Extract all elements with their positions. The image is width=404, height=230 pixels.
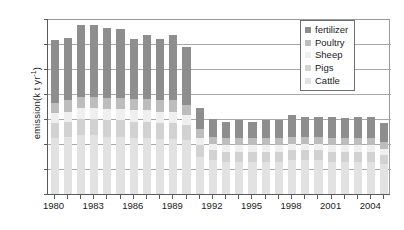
bar-segment-pigs xyxy=(143,122,151,138)
bar-segment-fertilizer xyxy=(169,35,177,100)
bar-segment-poultry xyxy=(314,137,322,145)
bar xyxy=(209,119,217,194)
y-axis-title-exponent: -1 xyxy=(30,70,37,76)
legend-label: Pigs xyxy=(315,63,333,73)
bar-segment-poultry xyxy=(328,138,336,146)
bar-segment-cattle xyxy=(116,137,124,195)
legend-item-sheep[interactable]: Sheep xyxy=(305,49,348,62)
x-tick-mark xyxy=(291,195,292,199)
bar xyxy=(248,122,256,195)
bar-segment-cattle xyxy=(156,139,164,194)
x-tick-label: 1980 xyxy=(34,201,74,211)
bar-segment-poultry xyxy=(156,100,164,111)
bar-segment-fertilizer xyxy=(143,35,151,99)
y-axis-title: emission(k t yr-1) xyxy=(30,23,42,183)
legend-item-poultry[interactable]: Poultry xyxy=(305,37,348,50)
bar-segment-fertilizer xyxy=(156,39,164,100)
bar-segment-pigs xyxy=(275,152,283,162)
x-tick-mark xyxy=(93,195,94,199)
bar-segment-fertilizer xyxy=(77,25,85,96)
y-tick-mark xyxy=(44,69,48,70)
bar-segment-pigs xyxy=(169,123,177,139)
bar-segment-fertilizer xyxy=(248,122,256,138)
x-tick-mark xyxy=(317,195,318,199)
bar-segment-pigs xyxy=(248,152,256,162)
bar-segment-sheep xyxy=(130,110,138,121)
gridline xyxy=(48,144,391,145)
bar-segment-pigs xyxy=(64,122,72,137)
gridline xyxy=(48,94,391,95)
x-tick-mark xyxy=(304,195,305,199)
legend-item-pigs[interactable]: Pigs xyxy=(305,62,348,75)
x-tick-mark xyxy=(331,195,332,199)
bar-segment-sheep xyxy=(169,112,177,123)
bar-segment-fertilizer xyxy=(196,108,204,129)
bar-segment-sheep xyxy=(51,113,59,123)
x-tick-mark xyxy=(357,195,358,199)
gridline xyxy=(48,169,391,170)
bar-segment-fertilizer xyxy=(341,118,349,138)
bar-segment-poultry xyxy=(143,99,151,110)
bar-segment-cattle xyxy=(130,138,138,194)
legend-item-cattle[interactable]: Cattle xyxy=(305,74,348,87)
bar-segment-poultry xyxy=(301,137,309,145)
bar-segment-cattle xyxy=(182,140,190,194)
x-tick-mark xyxy=(80,195,81,199)
y-tick-mark xyxy=(44,19,48,20)
x-tick-mark xyxy=(225,195,226,199)
x-tick-label: 2001 xyxy=(311,201,351,211)
bar-segment-pigs xyxy=(51,123,59,138)
bar-segment-sheep xyxy=(182,115,190,125)
bar-segment-pigs xyxy=(103,120,111,136)
bar-segment-fertilizer xyxy=(262,120,270,138)
legend-label: Poultry xyxy=(315,38,345,48)
bar-segment-cattle xyxy=(314,160,322,194)
bar-segment-poultry xyxy=(51,103,59,113)
y-tick-mark xyxy=(44,119,48,120)
bar-segment-fertilizer xyxy=(275,120,283,138)
x-tick-mark xyxy=(344,195,345,199)
bar-segment-poultry xyxy=(380,142,388,150)
bar-segment-pigs xyxy=(367,152,375,162)
bar-segment-poultry xyxy=(275,138,283,146)
bar-segment-cattle xyxy=(103,137,111,195)
bar-segment-pigs xyxy=(90,119,98,135)
y-axis-title-tail: ) xyxy=(31,67,42,70)
bar-segment-cattle xyxy=(354,162,362,195)
bar xyxy=(64,38,72,194)
bar xyxy=(262,120,270,194)
x-tick-mark xyxy=(370,195,371,199)
x-tick-mark xyxy=(159,195,160,199)
x-tick-mark xyxy=(106,195,107,199)
gridline xyxy=(48,119,391,120)
bar-segment-pigs xyxy=(354,152,362,162)
bar xyxy=(182,47,190,195)
x-tick-mark xyxy=(67,195,68,199)
bar-segment-sheep xyxy=(64,112,72,122)
bar-segment-poultry xyxy=(288,137,296,145)
bar-segment-poultry xyxy=(64,100,72,111)
bar-segment-poultry xyxy=(169,100,177,111)
legend-item-fertilizer[interactable]: fertilizer xyxy=(305,24,348,37)
bar-segment-fertilizer xyxy=(314,117,322,137)
x-tick-label: 1998 xyxy=(271,201,311,211)
x-tick-label: 1995 xyxy=(231,201,271,211)
bar-segment-poultry xyxy=(262,138,270,146)
bar-segment-poultry xyxy=(196,129,204,138)
bar-segment-pigs xyxy=(196,145,204,156)
legend-swatch-icon xyxy=(305,65,311,71)
bar-segment-cattle xyxy=(51,138,59,194)
x-tick-mark xyxy=(265,195,266,199)
bar-segment-sheep xyxy=(143,110,151,121)
bar-segment-poultry xyxy=(103,98,111,109)
bar xyxy=(235,120,243,194)
y-tick-mark xyxy=(44,169,48,170)
bar-segment-poultry xyxy=(248,138,256,146)
bar-segment-cattle xyxy=(288,160,296,194)
bar-segment-poultry xyxy=(182,105,190,115)
legend-swatch-icon xyxy=(305,52,311,58)
bar-segment-pigs xyxy=(77,119,85,135)
y-tick-mark xyxy=(44,44,48,45)
bar xyxy=(222,122,230,195)
x-tick-mark xyxy=(186,195,187,199)
